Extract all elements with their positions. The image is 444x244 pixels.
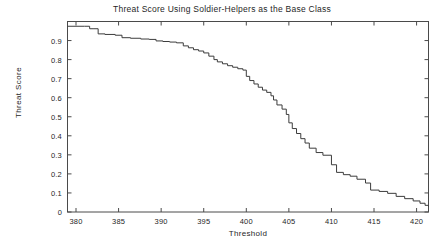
x-tick-label: 405	[282, 217, 295, 226]
y-tick-label: 0.8	[24, 55, 62, 64]
chart-figure: Threat Score Using Soldier-Helpers as th…	[0, 0, 444, 244]
y-tick-label: 0.9	[24, 36, 62, 45]
x-tick-label: 400	[240, 217, 253, 226]
y-tick-label: 0.1	[24, 188, 62, 197]
y-tick-label: 0	[24, 208, 62, 217]
x-tick-label: 410	[325, 217, 338, 226]
threat-score-step-line	[68, 26, 429, 206]
y-tick-label: 0.3	[24, 150, 62, 159]
y-tick-label: 0.6	[24, 93, 62, 102]
x-tick-label: 380	[69, 217, 82, 226]
y-tick-label: 0.4	[24, 131, 62, 140]
x-tick-label: 390	[155, 217, 168, 226]
y-tick-marks	[68, 41, 429, 212]
x-tick-label: 420	[410, 217, 423, 226]
x-tick-label: 415	[367, 217, 380, 226]
plot-area	[0, 0, 444, 244]
x-tick-label: 395	[197, 217, 210, 226]
plot-frame	[68, 22, 429, 213]
y-tick-label: 0.2	[24, 169, 62, 178]
y-tick-label: 0.7	[24, 74, 62, 83]
y-tick-label: 0.5	[24, 112, 62, 121]
x-tick-label: 385	[112, 217, 125, 226]
